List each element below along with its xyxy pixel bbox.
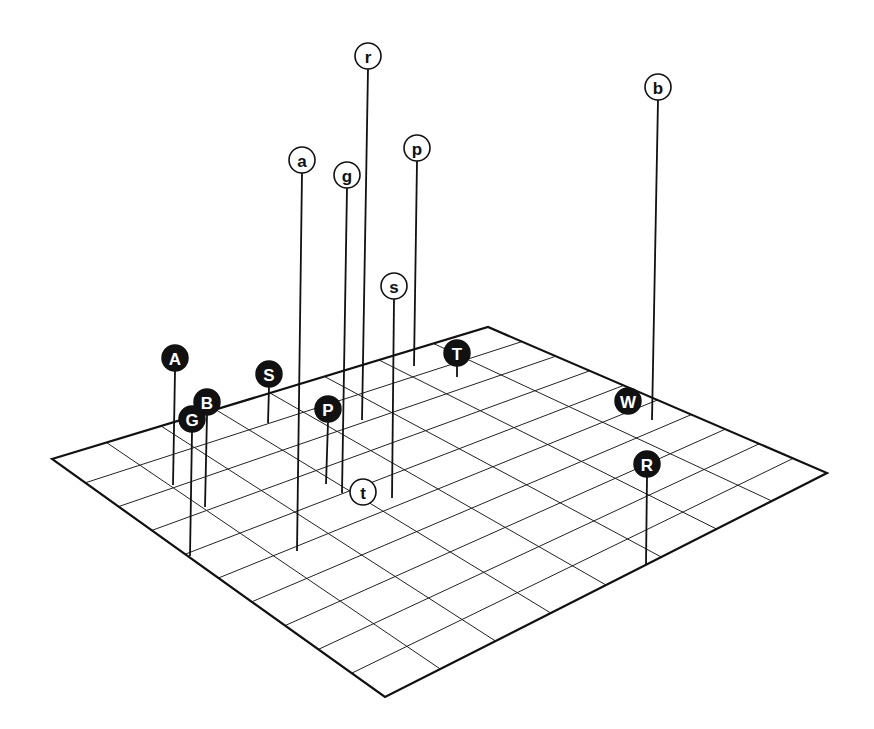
drop-line-S [268,387,269,423]
marker-label: T [452,345,463,364]
drop-line-R [646,477,647,565]
plane-outline [52,327,827,697]
marker-label: W [620,393,637,412]
point-marker-open-r: r [355,43,381,69]
point-marker-open-t: t [350,479,376,505]
marker-label: t [360,484,366,503]
point-marker-open-b: b [645,74,671,100]
point-marker-open-a: a [289,147,315,173]
point-marker-filled-R: R [634,451,660,477]
marker-label: b [653,79,663,98]
marker-label: S [263,366,274,385]
marker-label: R [641,456,653,475]
marker-label: p [412,140,422,159]
marker-label: P [322,401,333,420]
marker-label: g [342,167,352,186]
point-marker-open-s: s [381,273,407,299]
point-marker-filled-G: G [179,406,205,432]
drop-line-p [414,161,417,366]
point-marker-open-g: g [334,162,360,188]
point-marker-open-p: p [404,135,430,161]
perspective-scatter-diagram: rbpagsTASWBPGRt [0,0,874,729]
point-marker-filled-A: A [162,345,188,371]
ground-plane [52,327,827,697]
marker-label: G [185,411,198,430]
marker-label: r [365,48,372,67]
point-marker-filled-W: W [615,388,641,414]
marker-label: s [389,278,398,297]
point-marker-filled-S: S [256,361,282,387]
point-marker-filled-P: P [315,396,341,422]
marker-label: a [297,152,307,171]
marker-label: A [169,350,181,369]
point-marker-filled-T: T [444,340,470,366]
marker-label: B [201,394,213,413]
drop-line-b [652,100,658,420]
